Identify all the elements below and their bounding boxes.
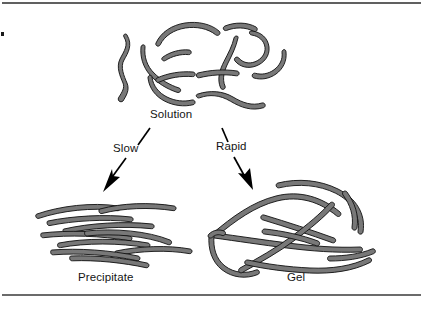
precipitate-label: Precipitate [78, 271, 133, 283]
gel-chains-group [0, 0, 435, 312]
solution-label: Solution [150, 108, 192, 120]
figure-panel: Solution Precipitate Gel Slow Rapid [0, 0, 435, 312]
polymer-chain [343, 191, 358, 230]
gel-chain-set [208, 180, 375, 277]
rapid-transition-label: Rapid [216, 140, 247, 152]
gel-label: Gel [287, 271, 305, 283]
slow-transition-label: Slow [113, 142, 138, 154]
